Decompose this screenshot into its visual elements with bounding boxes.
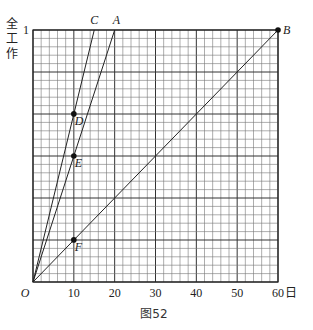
- point-b: [275, 27, 281, 33]
- x-tick-label: 60: [272, 286, 284, 300]
- y-axis-label-char: 作: [6, 47, 18, 61]
- point-label-e: E: [74, 156, 83, 170]
- point-label-f: F: [74, 240, 83, 254]
- point-label-b: B: [283, 23, 291, 37]
- x-tick-label: 40: [190, 286, 202, 300]
- line-label-a: A: [112, 13, 121, 27]
- y-tick-label: 1: [23, 23, 29, 37]
- figure-caption: 图52: [140, 307, 167, 321]
- chart: CABDEF1020304050601O日全工作图52: [0, 0, 313, 330]
- y-axis-label-char: 全: [6, 16, 18, 31]
- y-axis-label-char: 工: [6, 32, 18, 46]
- point-label-d: D: [74, 114, 84, 128]
- origin-label: O: [21, 286, 30, 300]
- x-tick-label: 10: [68, 286, 80, 300]
- x-axis-label: 日: [285, 286, 297, 300]
- x-tick-label: 50: [231, 286, 243, 300]
- x-tick-label: 30: [150, 286, 162, 300]
- line-label-c: C: [90, 13, 99, 27]
- x-tick-label: 20: [109, 286, 121, 300]
